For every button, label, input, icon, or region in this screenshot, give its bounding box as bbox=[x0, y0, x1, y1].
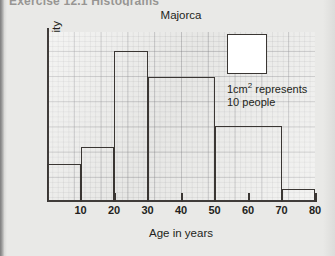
x-axis-tick bbox=[315, 193, 317, 202]
x-axis-tick bbox=[248, 193, 250, 202]
x-axis-tick-label: 50 bbox=[208, 204, 220, 216]
histogram-bar bbox=[114, 51, 148, 202]
histogram-bar bbox=[47, 164, 81, 202]
x-axis-title: Age in years bbox=[47, 227, 315, 239]
x-axis-tick bbox=[114, 193, 116, 202]
page-binding-shadow bbox=[4, 0, 7, 256]
cropped-exercise-heading: Exercise 12.1 Histograms bbox=[9, 0, 189, 6]
histogram-bar bbox=[215, 126, 282, 202]
x-axis-tick bbox=[81, 193, 83, 202]
chart-key: 1cm2 represents 10 people bbox=[227, 34, 307, 110]
x-axis-tick-label: 10 bbox=[74, 204, 86, 216]
x-axis-tick bbox=[148, 193, 150, 202]
key-line2: 10 people bbox=[227, 96, 275, 108]
key-area-square bbox=[227, 34, 267, 74]
key-line1-prefix: 1cm bbox=[227, 83, 248, 95]
key-line1-suffix: represents bbox=[252, 83, 307, 95]
x-axis-tick bbox=[282, 193, 284, 202]
histogram-bar bbox=[282, 189, 316, 202]
x-axis-tick-label: 80 bbox=[309, 204, 321, 216]
x-axis-tick-label: 20 bbox=[108, 204, 120, 216]
key-caption: 1cm2 represents 10 people bbox=[227, 79, 307, 110]
x-axis-tick-label: 60 bbox=[242, 204, 254, 216]
x-axis-tick bbox=[181, 193, 183, 202]
histogram-bar bbox=[81, 147, 115, 202]
x-axis-tick bbox=[215, 193, 217, 202]
scanned-page: Exercise 12.1 Histograms Majorca Frequen… bbox=[0, 0, 335, 256]
page-right-fade bbox=[323, 0, 335, 256]
histogram-bar bbox=[148, 77, 215, 202]
x-axis-tick-label: 30 bbox=[141, 204, 153, 216]
x-axis-tick-label: 40 bbox=[175, 204, 187, 216]
chart-title: Majorca bbox=[47, 9, 315, 21]
x-axis-tick-label: 70 bbox=[275, 204, 287, 216]
